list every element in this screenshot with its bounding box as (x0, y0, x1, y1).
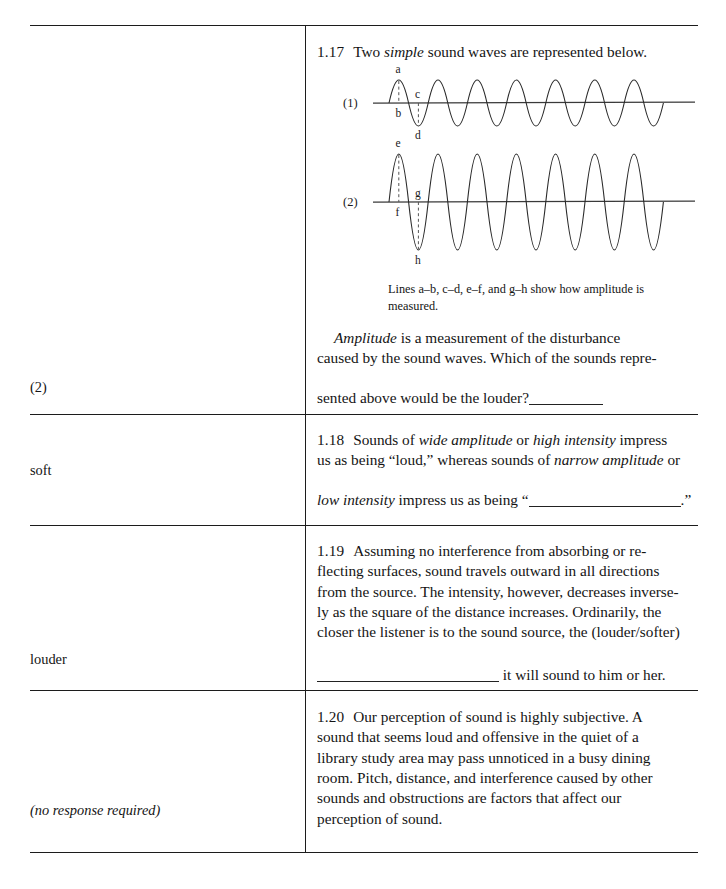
wave-2-point-f: f (396, 206, 400, 218)
frame-120-line1: 1.20Our perception of sound is highly su… (317, 707, 698, 727)
answer-frame-118: soft (30, 461, 295, 480)
frame-119: 1.19Assuming no interference from absorb… (317, 541, 698, 685)
wave-figure: (1) a b c d (2) (317, 55, 698, 270)
rule-after-frame-117 (30, 414, 698, 415)
frame-120-line6: perception of sound. (317, 809, 698, 829)
frame-120-line5: sounds and obstructions are factors that… (317, 788, 698, 808)
emphasis-high-intensity: high intensity (533, 431, 616, 448)
answer-blank-118[interactable] (529, 506, 681, 507)
wave-1-point-c: c (415, 88, 420, 100)
answer-text: soft (30, 462, 52, 478)
frame-119-line1: 1.19Assuming no interference from absorb… (317, 541, 698, 561)
wave-2-point-e: e (396, 137, 401, 149)
frame-120-l1: Our perception of sound is highly subjec… (353, 708, 643, 725)
emphasis-narrow-amplitude: narrow amplitude (554, 451, 664, 468)
frame-117-body: Amplitude is a measurement of the distur… (317, 328, 698, 408)
emphasis-wide-amplitude: wide amplitude (419, 431, 513, 448)
answer-frame-117: (2) (30, 378, 295, 397)
frame-118-line3: low intensity impress us as being “.” (317, 490, 698, 510)
frame-117-body-line3: sented above would be the louder? (317, 388, 698, 408)
rule-after-frame-119 (30, 690, 698, 691)
wave-1-point-d: d (415, 129, 421, 141)
frame-118-l3-a: impress us as being “ (395, 491, 529, 508)
document-page: (2) 1.17Two simple sound waves are repre… (0, 0, 726, 889)
frame-118-l1-b: or (513, 431, 533, 448)
frame-118-l1-c: impress (616, 431, 667, 448)
frame-118-l1-a: Sounds of (353, 431, 418, 448)
wave-1-point-a: a (396, 63, 401, 75)
answer-frame-119: louder (30, 650, 295, 669)
frame-number: 1.19 (317, 542, 344, 559)
frame-120-line4: room. Pitch, distance, and interference … (317, 768, 698, 788)
frame-119-l1: Assuming no interference from absorbing … (353, 542, 646, 559)
frame-119-line5: closer the listener is to the sound sour… (317, 622, 698, 642)
frame-120-line2: sound that seems loud and offensive in t… (317, 727, 698, 747)
frame-120-line3: library study area may pass unnoticed in… (317, 748, 698, 768)
frame-117-body-line1-rest: is a measurement of the disturbance (397, 329, 620, 346)
rule-bottom (30, 852, 698, 853)
answer-text: louder (30, 651, 67, 667)
frame-119-line4: ly as the square of the distance increas… (317, 602, 698, 622)
answer-blank-119[interactable] (317, 681, 499, 682)
frame-118: 1.18Sounds of wide amplitude or high int… (317, 430, 698, 510)
wave-1-label: (1) (343, 96, 358, 110)
frame-number: 1.20 (317, 708, 344, 725)
wave-2-point-h: h (415, 254, 421, 266)
frame-118-l2-b: or (664, 451, 681, 468)
column-divider (305, 25, 306, 853)
answer-text: (no response required) (30, 802, 160, 818)
emphasis-low-intensity: low intensity (317, 491, 395, 508)
frame-119-line3: from the source. The intensity, however,… (317, 582, 698, 602)
frame-118-line2: us as being “loud,” whereas sounds of na… (317, 450, 698, 470)
frame-117-question-text: sented above would be the louder? (317, 389, 529, 406)
wave-1-point-b: b (396, 107, 402, 119)
frame-117-body-line1: Amplitude is a measurement of the distur… (317, 328, 698, 348)
rule-after-frame-118 (30, 525, 698, 526)
answer-blank-117[interactable] (529, 404, 603, 405)
emphasis-amplitude: Amplitude (334, 329, 397, 346)
frame-118-l3-b: .” (681, 491, 692, 508)
frame-119-line6: it will sound to him or her. (317, 665, 698, 685)
wave-2-point-g: g (415, 187, 421, 200)
frame-118-line1: 1.18Sounds of wide amplitude or high int… (317, 430, 698, 450)
answer-text: (2) (30, 379, 47, 395)
rule-top (30, 25, 698, 26)
frame-119-line2: flecting surfaces, sound travels outward… (317, 561, 698, 581)
frame-number: 1.18 (317, 431, 344, 448)
answer-frame-120: (no response required) (30, 801, 295, 820)
wave-2-label: (2) (343, 195, 358, 209)
figure-caption: Lines a–b, c–d, e–f, and g–h show how am… (388, 281, 678, 315)
frame-117-body-line2: caused by the sound waves. Which of the … (317, 348, 698, 368)
frame-120: 1.20Our perception of sound is highly su… (317, 707, 698, 829)
frame-118-l2-a: us as being “loud,” whereas sounds of (317, 451, 554, 468)
frame-119-l6: it will sound to him or her. (499, 666, 666, 683)
